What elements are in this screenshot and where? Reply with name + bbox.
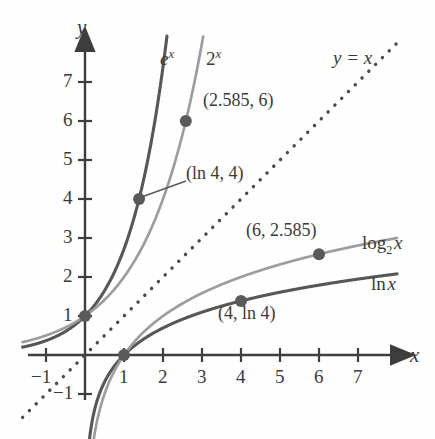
point-1-0 <box>118 349 130 361</box>
y-tick-label-3: 3 <box>63 227 73 246</box>
y-tick-label-neg1: −1 <box>53 383 73 402</box>
curve-label-log2: log2 x <box>362 233 402 252</box>
y-axis-label: y <box>77 17 86 38</box>
curve-e-x <box>23 36 167 347</box>
figure-exponential-log-graph: y x −11234567−11234567 ex 2x ln x log2 x… <box>0 0 435 439</box>
curve-label-ln-arg: x <box>387 273 395 294</box>
x-tick-label--1: −1 <box>31 367 51 386</box>
y-tick-label-1: 1 <box>63 305 73 324</box>
curve-label-exp-e: ex <box>160 49 174 68</box>
point-label-6-2585: (6, 2.585) <box>246 221 317 239</box>
curve-label-log2-fn: log <box>362 232 386 253</box>
y-tick-label-2: 2 <box>63 266 73 285</box>
curve-label-exp-2: 2x <box>206 49 221 68</box>
point-2585-6 <box>180 115 192 127</box>
y-tick-label-6: 6 <box>63 110 73 129</box>
x-axis-label: x <box>410 345 419 366</box>
point-6-2585 <box>313 248 325 260</box>
curve-label-ln-fn: ln <box>371 273 386 294</box>
curve-label-identity-line: y = x <box>333 48 372 67</box>
curve-log-2-x <box>94 238 397 439</box>
x-tick-label-3: 3 <box>197 367 207 386</box>
curve-label-exp-2-exponent: x <box>216 47 222 61</box>
x-tick-label-1: 1 <box>119 367 129 386</box>
y-tick-label-5: 5 <box>63 149 73 168</box>
curve-label-log2-arg: x <box>394 232 402 253</box>
curve-label-exp-2-base: 2 <box>206 48 216 69</box>
x-tick-label-2: 2 <box>158 367 168 386</box>
curve-label-ln: ln x <box>371 274 396 293</box>
point-0-1 <box>79 310 91 322</box>
point-label-2585-6: (2.585, 6) <box>203 91 274 109</box>
point-ln4-4 <box>133 193 145 205</box>
y-tick-label-7: 7 <box>63 71 73 90</box>
curve-2-x <box>23 37 204 343</box>
curve-label-exp-e-exponent: x <box>168 47 174 61</box>
x-tick-label-4: 4 <box>236 367 246 386</box>
point-label-4-ln4: (4, ln 4) <box>218 304 276 322</box>
x-tick-label-5: 5 <box>275 367 285 386</box>
x-tick-label-7: 7 <box>353 367 363 386</box>
y-tick-label-4: 4 <box>63 188 73 207</box>
x-tick-label-6: 6 <box>314 367 324 386</box>
point-label-ln4-4: (ln 4, 4) <box>186 164 244 182</box>
